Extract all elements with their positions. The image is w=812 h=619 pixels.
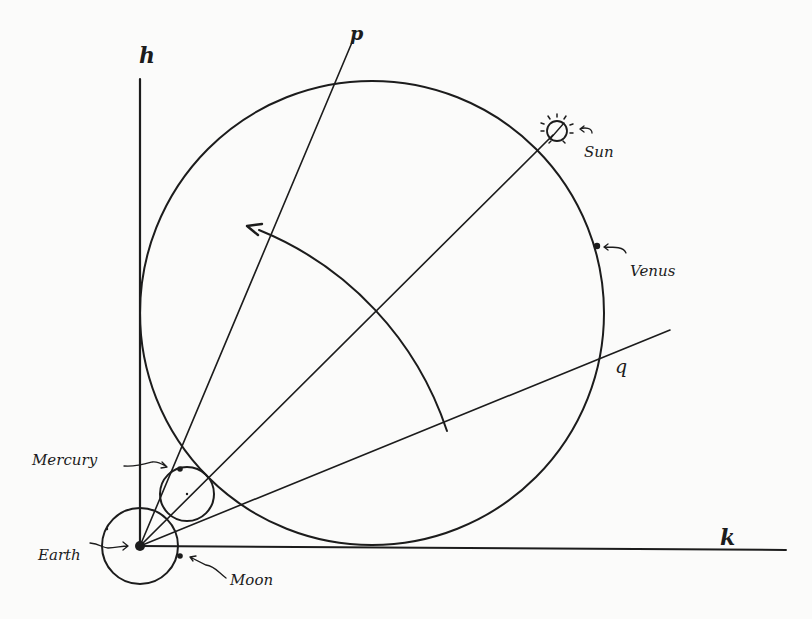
line-p xyxy=(140,40,353,546)
sun-pointer-arrow xyxy=(580,126,592,133)
sun-rays-icon xyxy=(541,114,573,143)
moon-dot xyxy=(177,553,183,559)
mercury-epicycle-center xyxy=(186,493,188,495)
line-to-sun xyxy=(140,135,553,546)
earth-dot xyxy=(135,541,145,551)
label-moon: Moon xyxy=(230,571,273,589)
line-label-q: q xyxy=(615,355,627,377)
horizontal-axis-k xyxy=(140,546,786,550)
venus-dot xyxy=(594,243,600,249)
moon-pointer-arrow xyxy=(190,556,226,578)
earth-pointer-arrow xyxy=(90,542,128,550)
venus-pointer-arrow xyxy=(604,244,626,253)
mercury-pointer-arrow xyxy=(124,462,167,468)
line-label-p: p xyxy=(350,22,363,44)
venus-orbit-circle xyxy=(140,81,604,545)
label-sun: Sun xyxy=(584,143,614,161)
axis-label-k: k xyxy=(720,524,735,550)
rotation-arrow-arc xyxy=(259,230,447,431)
axis-label-h: h xyxy=(139,42,155,68)
diagram-canvas xyxy=(0,0,812,619)
label-venus: Venus xyxy=(630,262,675,280)
label-earth: Earth xyxy=(38,546,81,564)
moon-orbit-mark xyxy=(106,528,108,530)
line-q xyxy=(140,330,670,546)
mercury-dot xyxy=(177,466,183,472)
label-mercury: Mercury xyxy=(32,451,97,469)
